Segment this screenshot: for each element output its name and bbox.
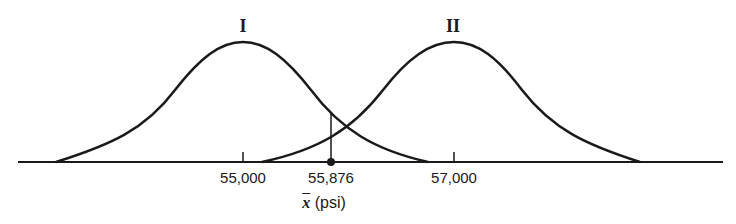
x-bar-symbol: x: [302, 194, 310, 211]
critical-value-dot: [327, 158, 335, 166]
normal-curves-diagram: [0, 0, 736, 224]
curve-label-II: II: [446, 16, 460, 37]
x-axis-unit: (psi): [310, 194, 346, 211]
tick-label-55000: 55,000: [220, 169, 266, 186]
x-axis-label: x (psi): [302, 194, 346, 212]
tick-label-57000: 57,000: [431, 169, 477, 186]
tick-label-55876: 55,876: [308, 169, 354, 186]
curve-label-I: I: [239, 16, 246, 37]
curve-II: [262, 42, 640, 162]
